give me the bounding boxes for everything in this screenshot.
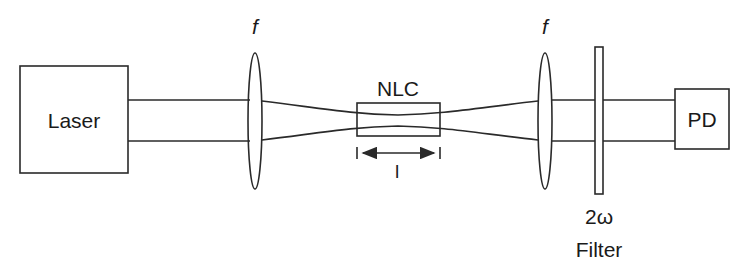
beam-focused	[262, 101, 538, 140]
lens-2: f	[538, 15, 552, 189]
beam-collimated-in	[128, 100, 250, 141]
crystal-length-label: l	[395, 161, 399, 182]
laser-label: Laser	[48, 109, 101, 132]
lens-1-shape	[248, 53, 262, 189]
laser: Laser	[20, 66, 128, 173]
lens-1: f	[248, 15, 262, 189]
filter-label-frequency: 2ω	[585, 205, 613, 228]
lens-2-label: f	[542, 15, 550, 38]
filter-plate	[595, 47, 603, 194]
lens-1-label: f	[252, 15, 260, 38]
lens-2-shape	[538, 53, 552, 189]
crystal-label: NLC	[377, 77, 419, 100]
crystal-length-indicator: l	[357, 147, 440, 182]
beam-collimated-out	[552, 100, 675, 141]
photodetector: PD	[675, 89, 729, 149]
photodetector-label: PD	[687, 108, 716, 131]
filter-label: Filter	[576, 238, 623, 261]
filter: 2ω Filter	[576, 47, 623, 261]
optical-setup-diagram: Laser f NLC l f 2ω Filter	[0, 0, 748, 268]
crystal-box	[357, 103, 440, 136]
